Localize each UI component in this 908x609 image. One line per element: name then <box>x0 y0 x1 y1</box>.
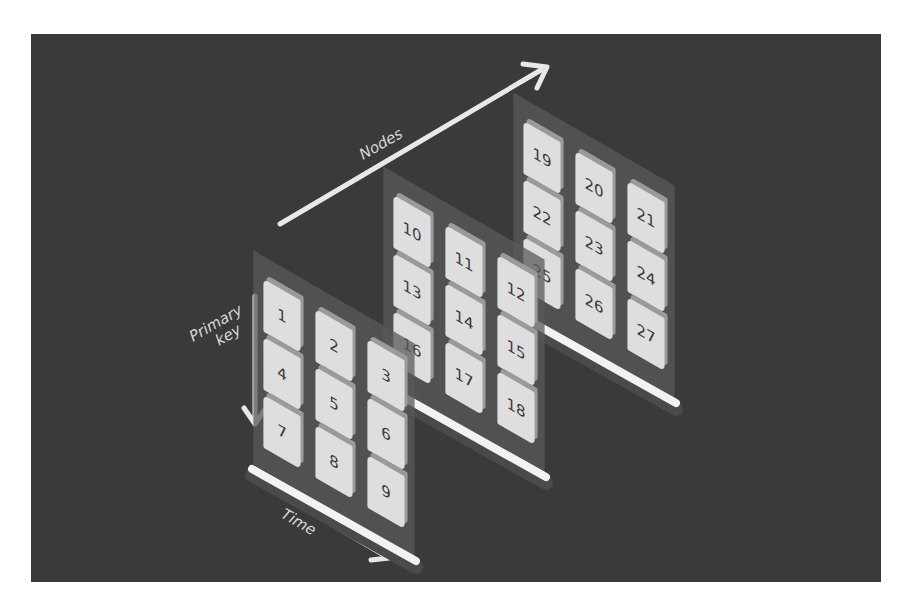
nodes-axis-label: Nodes <box>356 124 406 163</box>
node-panels: 1920212223242526271011121314151617181234… <box>252 93 676 568</box>
isometric-partition-diagram: Nodes Primary key Time 19202122232425262… <box>31 34 881 582</box>
diagram-canvas: Nodes Primary key Time 19202122232425262… <box>31 34 881 582</box>
